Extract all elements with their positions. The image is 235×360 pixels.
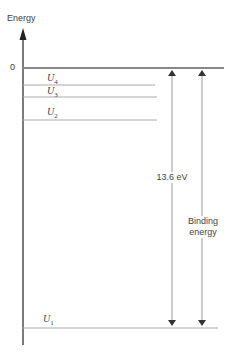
binding-label-line1: Binding bbox=[184, 216, 222, 227]
axis-label: Energy bbox=[7, 14, 36, 23]
level-u3-label: U3 bbox=[47, 86, 58, 99]
ionization-energy-label: 13.6 eV bbox=[155, 172, 189, 183]
energy-level-diagram bbox=[0, 0, 235, 360]
axis-arrowhead-icon bbox=[20, 28, 27, 40]
level-u2-label: U2 bbox=[47, 107, 58, 120]
binding-label-line2: energy bbox=[184, 227, 222, 238]
binding-energy-label: Binding energy bbox=[184, 216, 222, 238]
level-u1-label: U1 bbox=[43, 314, 54, 327]
zero-label: 0 bbox=[10, 63, 15, 72]
